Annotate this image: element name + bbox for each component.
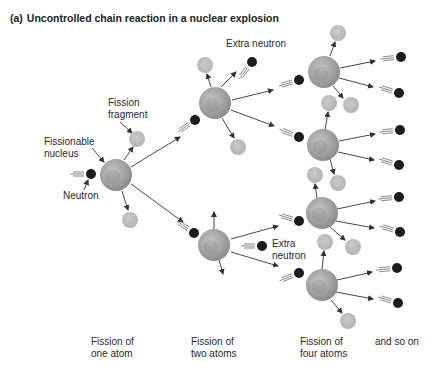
arrow	[331, 300, 342, 313]
fission-fragment	[230, 139, 246, 155]
arrow	[336, 221, 374, 228]
neutron	[394, 192, 404, 202]
arrow	[219, 260, 223, 274]
stage-label-one-atom: Fission of one atom	[91, 336, 134, 360]
arrow	[131, 184, 183, 222]
motion-streak	[379, 131, 393, 132]
nucleus-texture	[312, 280, 326, 294]
arrow	[221, 72, 236, 87]
neutron	[257, 241, 267, 251]
motion-streak	[382, 129, 393, 130]
motion-streak	[380, 226, 393, 230]
neutron	[294, 75, 304, 85]
chain-reaction-diagram: (a)Uncontrolled chain reaction in a nucl…	[0, 0, 428, 370]
motion-streak	[239, 68, 247, 79]
arrow	[338, 152, 374, 160]
fission-fragment	[129, 131, 145, 147]
arrow	[322, 251, 324, 269]
motion-streak	[376, 269, 390, 270]
arrow	[340, 61, 375, 68]
motion-streak	[282, 274, 292, 278]
arrow	[325, 112, 328, 130]
fission-fragment	[330, 25, 346, 41]
fission-fragment	[330, 175, 346, 191]
motion-streak	[379, 271, 390, 272]
arrow	[315, 184, 317, 198]
motion-streak	[279, 82, 292, 86]
neutron	[396, 52, 406, 62]
arrow	[339, 134, 375, 141]
motion-streak	[279, 215, 292, 219]
motion-streak	[383, 60, 394, 61]
neutron	[393, 298, 403, 308]
arrow	[336, 292, 373, 299]
arrow	[207, 74, 211, 87]
fission-fragment	[197, 57, 213, 73]
neutron	[392, 263, 402, 273]
neutron	[190, 115, 200, 125]
arrow	[330, 42, 335, 56]
arrow	[122, 191, 128, 210]
arrow	[231, 110, 274, 126]
label-fission-fragment: Fission fragment	[108, 97, 147, 121]
neutron	[294, 268, 304, 278]
motion-streak	[379, 267, 390, 268]
motion-streak	[382, 133, 393, 134]
pointer-arrow	[120, 122, 132, 133]
neutron	[395, 125, 405, 135]
arrow	[333, 86, 343, 98]
arrow	[337, 201, 375, 209]
pointer-arrow	[84, 180, 88, 190]
motion-streak	[383, 56, 394, 57]
neutron	[394, 160, 404, 170]
neutron	[86, 169, 96, 179]
arrow	[330, 227, 345, 240]
arrow	[232, 90, 273, 100]
nucleus-texture	[314, 67, 328, 81]
neutron	[395, 227, 405, 237]
motion-streak	[380, 58, 394, 59]
neutron	[294, 132, 304, 142]
diagram-artwork	[0, 0, 428, 370]
fission-fragment	[317, 234, 333, 250]
motion-streak	[378, 198, 392, 199]
fission-fragment	[345, 239, 361, 255]
motion-streak	[381, 200, 392, 201]
neutron	[394, 88, 404, 98]
motion-streak	[379, 87, 392, 91]
neutron	[247, 57, 257, 67]
arrow	[231, 252, 278, 266]
motion-streak	[283, 277, 293, 281]
arrow	[339, 78, 373, 87]
stage-label-and-so-on: and so on	[375, 336, 419, 348]
neutron	[294, 216, 304, 226]
label-fissionable-nucleus: Fissionable nucleus	[44, 136, 95, 160]
fission-fragment	[343, 97, 359, 113]
nucleus-texture	[106, 170, 120, 184]
neutron	[189, 228, 199, 238]
fission-fragment	[307, 167, 323, 183]
label-extra-neutron-top: Extra neutron	[226, 38, 286, 50]
motion-streak	[381, 196, 392, 197]
motion-streak	[282, 132, 292, 136]
motion-streak	[378, 297, 391, 301]
motion-streak	[379, 159, 392, 163]
stage-label-four-atoms: Fission of four atoms	[300, 336, 347, 360]
label-extra-neutron-mid: Extra neutron	[272, 238, 306, 262]
fission-fragment	[122, 212, 138, 228]
arrow	[337, 272, 372, 280]
arrow	[222, 118, 234, 138]
nucleus-texture	[312, 208, 326, 222]
arrow	[330, 159, 334, 174]
fission-fragment	[340, 313, 356, 329]
nucleus-texture	[204, 240, 218, 254]
nucleus-texture	[205, 98, 219, 112]
arrow	[231, 226, 278, 239]
fission-fragment	[321, 95, 337, 111]
arrow	[124, 147, 133, 160]
nucleus-texture	[313, 140, 327, 154]
motion-streak	[283, 128, 293, 132]
stage-label-two-atoms: Fission of two atoms	[191, 336, 237, 360]
label-neutron: Neutron	[63, 190, 99, 202]
